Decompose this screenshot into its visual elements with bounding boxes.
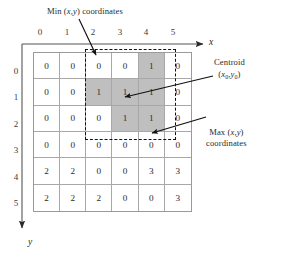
grid-cell: 0 <box>165 132 191 158</box>
centroid-title: Centroid <box>214 57 245 68</box>
x-tick-2: 2 <box>86 27 100 37</box>
grid-diagram-figure: Min (x,y) coordinates Centroid (x0,y0) M… <box>0 0 281 257</box>
grid-cell: 3 <box>165 185 191 211</box>
grid-cell: 0 <box>60 79 86 105</box>
grid-cell: 0 <box>139 132 165 158</box>
grid-cell: 0 <box>86 132 112 158</box>
grid-cell: 1 <box>112 79 138 105</box>
grid-cell: 0 <box>112 132 138 158</box>
grid-cell: 0 <box>34 53 60 79</box>
y-tick-2: 2 <box>9 119 23 129</box>
grid-cell: 0 <box>165 53 191 79</box>
grid-cell: 1 <box>139 106 165 132</box>
min-label-vars: x,y <box>67 6 77 16</box>
grid-cell: 0 <box>60 106 86 132</box>
grid-cell: 2 <box>86 185 112 211</box>
grid-cell: 0 <box>139 185 165 211</box>
grid-cell: 0 <box>112 158 138 184</box>
occupancy-grid: 000010001110000110000000220033222003 <box>33 52 192 212</box>
grid-cell: 2 <box>34 158 60 184</box>
x-tick-5: 5 <box>166 27 180 37</box>
centroid-coords: (x0,y0) <box>214 69 245 81</box>
max-label-prefix: Max ( <box>209 127 230 137</box>
centroid-paren-close: ) <box>238 69 241 79</box>
grid-cell: 0 <box>86 158 112 184</box>
y-axis-label: y <box>28 237 32 247</box>
grid-cell: 1 <box>86 79 112 105</box>
grid-cell: 0 <box>60 53 86 79</box>
grid-cell: 1 <box>139 79 165 105</box>
grid-cell: 0 <box>112 185 138 211</box>
centroid-label: Centroid (x0,y0) <box>214 57 245 80</box>
grid-cell: 0 <box>165 79 191 105</box>
max-coordinates-label: Max (x,y) coordinates <box>206 127 247 148</box>
grid-cell: 2 <box>60 185 86 211</box>
grid-cell: 0 <box>86 53 112 79</box>
y-tick-0: 0 <box>9 66 23 76</box>
grid-cell: 1 <box>139 53 165 79</box>
x-tick-0: 0 <box>33 27 47 37</box>
grid-cell: 0 <box>165 106 191 132</box>
max-label-line1: Max (x,y) <box>206 127 247 138</box>
grid-cell: 2 <box>34 185 60 211</box>
y-tick-1: 1 <box>9 92 23 102</box>
max-label-line2: coordinates <box>206 138 247 149</box>
y-tick-4: 4 <box>9 172 23 182</box>
grid-cell: 3 <box>139 158 165 184</box>
grid-cell: 0 <box>34 79 60 105</box>
x-tick-1: 1 <box>60 27 74 37</box>
max-label-vars: x,y <box>230 127 240 137</box>
y-tick-3: 3 <box>9 145 23 155</box>
y-tick-5: 5 <box>9 198 23 208</box>
centroid-y-sub: 0 <box>234 74 237 80</box>
grid-cell: 0 <box>112 53 138 79</box>
grid-cell: 0 <box>34 132 60 158</box>
x-tick-3: 3 <box>113 27 127 37</box>
grid-cell: 2 <box>60 158 86 184</box>
grid-cell: 0 <box>86 106 112 132</box>
min-coordinates-label: Min (x,y) coordinates <box>47 6 123 17</box>
grid-cell: 1 <box>112 106 138 132</box>
min-label-prefix: Min ( <box>47 6 67 16</box>
min-label-suffix: ) coordinates <box>77 6 123 16</box>
grid-cell: 0 <box>34 106 60 132</box>
grid-cell: 0 <box>60 132 86 158</box>
min-leader-arrow <box>79 19 96 55</box>
x-axis-label: x <box>209 37 213 47</box>
grid-cell: 3 <box>165 158 191 184</box>
centroid-x-sub: 0 <box>225 74 228 80</box>
x-tick-4: 4 <box>139 27 153 37</box>
max-label-suffix: ) <box>241 127 244 137</box>
